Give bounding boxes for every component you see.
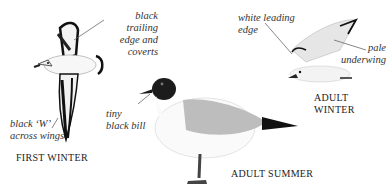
annotation-line: tiny: [106, 108, 145, 120]
caption-adult-winter: ADULT WINTER: [314, 92, 355, 116]
annotation-line: pale: [340, 42, 386, 54]
caption-first-winter: FIRST WINTER: [16, 152, 88, 164]
annotation-line: white leading: [238, 12, 295, 24]
annotation-black-w: black ‘W’ across wings: [10, 118, 64, 142]
annotation-white-leading-edge: white leading edge: [238, 12, 295, 36]
annotation-line: black trailing: [106, 10, 158, 34]
annotation-line: across wings: [10, 130, 64, 142]
annotation-line: edge: [238, 24, 295, 36]
annotation-line: black ‘W’: [10, 118, 64, 130]
annotation-line: edge and: [106, 34, 158, 46]
annotation-tiny-black-bill: tiny black bill: [106, 108, 145, 132]
annotation-line: black bill: [106, 120, 145, 132]
annotation-line: underwing: [340, 54, 386, 66]
annotation-line: coverts: [106, 46, 158, 58]
annotation-black-trailing-edge: black trailing edge and coverts: [106, 10, 158, 58]
caption-adult-summer: ADULT SUMMER: [231, 168, 313, 180]
caption-line: WINTER: [314, 104, 355, 116]
annotation-pale-underwing: pale underwing: [340, 42, 386, 66]
caption-line: ADULT: [314, 92, 355, 104]
